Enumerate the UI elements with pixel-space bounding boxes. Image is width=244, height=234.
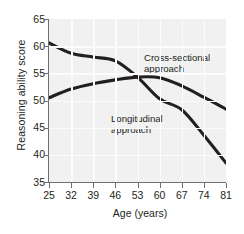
y-tick-label: 65 — [21, 14, 45, 25]
vertical-gridline — [115, 19, 116, 182]
x-tick-mark — [115, 183, 116, 188]
x-tick-mark — [160, 183, 161, 188]
vertical-gridline — [71, 19, 72, 182]
vertical-gridline — [204, 19, 205, 182]
x-axis-tick-labels: 253239465360677481 — [0, 190, 244, 204]
x-axis-label: Age (years) — [0, 207, 244, 219]
reasoning-ability-line-chart: Reasoning ability score 65605550454035 C… — [0, 0, 244, 234]
vertical-gridline — [138, 19, 139, 182]
x-tick-mark — [226, 183, 227, 188]
annotation-cross-sectional: Cross-sectional approach — [144, 52, 226, 74]
y-tick-mark — [44, 46, 49, 47]
x-axis-line — [48, 182, 226, 183]
x-tick-mark — [204, 183, 205, 188]
x-tick-mark — [93, 183, 94, 188]
y-tick-mark — [44, 73, 49, 74]
y-tick-label: 50 — [21, 95, 45, 106]
vertical-gridline — [182, 19, 183, 182]
plot-area: Cross-sectional approach Longitudinal ap… — [49, 19, 226, 182]
x-tick-mark — [138, 183, 139, 188]
y-tick-label: 60 — [21, 41, 45, 52]
y-tick-mark — [44, 128, 49, 129]
x-tick-label: 81 — [213, 190, 239, 201]
y-tick-mark — [44, 155, 49, 156]
y-tick-mark — [44, 19, 49, 20]
y-tick-label: 55 — [21, 68, 45, 79]
x-tick-mark — [71, 183, 72, 188]
x-axis-label-text: Age (years) — [77, 207, 167, 219]
x-tick-mark — [182, 183, 183, 188]
y-tick-label: 40 — [21, 149, 45, 160]
vertical-gridline — [93, 19, 94, 182]
vertical-gridline — [160, 19, 161, 182]
x-tick-mark — [49, 183, 50, 188]
y-tick-label: 35 — [21, 177, 45, 188]
y-tick-mark — [44, 101, 49, 102]
y-tick-label: 45 — [21, 122, 45, 133]
